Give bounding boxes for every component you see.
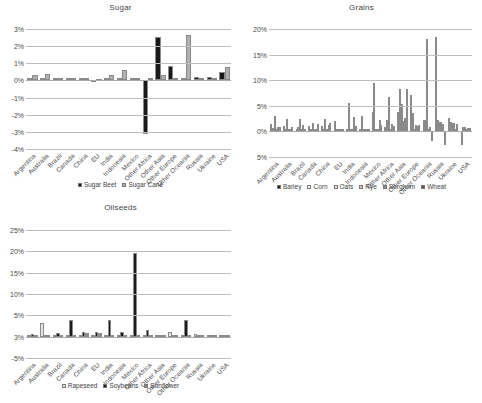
legend-label: Sunflower xyxy=(150,382,179,389)
bar-group xyxy=(421,29,434,157)
legend-grains: BarleyCornOatsRyeSorghumWheat xyxy=(241,183,482,190)
y-tick-label: 20% xyxy=(253,26,267,33)
legend-label: Sugar Beet xyxy=(84,181,117,188)
gridline xyxy=(26,63,231,64)
legend-swatch xyxy=(307,185,311,189)
gridline xyxy=(269,106,472,107)
bar xyxy=(133,253,136,336)
legend-item: Sugar Cane xyxy=(122,181,163,188)
bar xyxy=(388,97,390,132)
y-tick-label: 5% xyxy=(257,154,267,161)
chart-panel-grains: Grains 20%15%10%5%0%5% ArgentinaAustrali… xyxy=(241,0,482,200)
gridline xyxy=(26,315,231,316)
gridline xyxy=(26,230,231,231)
gridline xyxy=(269,80,472,81)
legend-swatch xyxy=(359,185,363,189)
legend-sugar: Sugar BeetSugar Cane xyxy=(0,181,241,188)
y-tick-label: 3% xyxy=(14,333,24,340)
legend-item: Barley xyxy=(277,183,301,190)
y-axis-oilseeds: 25%20%15%10%5%3%-5% xyxy=(0,230,26,358)
gridline xyxy=(26,46,231,47)
y-axis-sugar: 3%2%1%0%-1%-2%-3%-4% xyxy=(0,29,26,149)
bar xyxy=(406,89,408,131)
bar xyxy=(155,37,160,81)
legend-item: Rye xyxy=(359,183,377,190)
chart-title-sugar: Sugar xyxy=(0,0,241,12)
gridline xyxy=(269,55,472,56)
bar xyxy=(122,70,127,80)
bar-group xyxy=(396,29,409,157)
y-tick-label: 5% xyxy=(257,102,267,109)
legend-item: Sorghum xyxy=(383,183,415,190)
gridline xyxy=(26,251,231,252)
gridline xyxy=(26,29,231,30)
legend-item: Soybeans xyxy=(103,382,138,389)
gridline xyxy=(26,98,231,99)
y-tick-label: 0% xyxy=(257,128,267,135)
legend-label: Sorghum xyxy=(389,183,415,190)
y-tick-label: -4% xyxy=(12,146,24,153)
y-tick-label: 25% xyxy=(10,227,24,234)
bar-group xyxy=(447,29,460,157)
legend-oilseeds: RapeseedSoybeansSunflower xyxy=(0,382,241,389)
gridline xyxy=(26,358,231,359)
y-tick-label: 15% xyxy=(10,269,24,276)
legend-label: Oats xyxy=(340,183,354,190)
bar-group xyxy=(282,29,295,157)
bar xyxy=(317,124,319,132)
legend-item: Oats xyxy=(334,183,354,190)
legend-swatch xyxy=(421,185,425,189)
bar-group xyxy=(307,29,320,157)
legend-item: Rapeseed xyxy=(62,382,98,389)
chart-title-grains: Grains xyxy=(241,0,482,12)
y-tick-label: 10% xyxy=(10,291,24,298)
legend-swatch xyxy=(334,185,338,189)
bar-groups-grains xyxy=(269,29,472,157)
gridline xyxy=(26,132,231,133)
chart-title-oilseeds: Oilseeds xyxy=(0,200,241,212)
bar-group xyxy=(383,29,396,157)
bar-group xyxy=(320,29,333,157)
gridline xyxy=(26,273,231,274)
gridline xyxy=(26,337,231,338)
legend-label: Sugar Cane xyxy=(128,181,163,188)
legend-label: Barley xyxy=(283,183,301,190)
bar-group xyxy=(459,29,472,157)
legend-item: Corn xyxy=(307,183,327,190)
y-tick-label: 3% xyxy=(14,26,24,33)
bar-group xyxy=(345,29,358,157)
legend-swatch xyxy=(144,384,148,388)
bar xyxy=(373,83,375,132)
bar xyxy=(435,37,437,131)
bar xyxy=(431,131,433,141)
chart-panel-sugar: Sugar 3%2%1%0%-1%-2%-3%-4% ArgentinaAust… xyxy=(0,0,241,200)
y-tick-label: -3% xyxy=(12,128,24,135)
bar xyxy=(143,80,148,133)
legend-swatch xyxy=(383,185,387,189)
gridline xyxy=(269,131,472,132)
y-tick-label: 0% xyxy=(14,77,24,84)
bar xyxy=(348,103,350,131)
y-tick-label: 15% xyxy=(253,51,267,58)
x-tick-label: USA xyxy=(215,152,230,167)
gridline xyxy=(26,149,231,150)
legend-label: Soybeans xyxy=(109,382,138,389)
bar xyxy=(461,131,463,144)
legend-label: Rye xyxy=(365,183,377,190)
plot-canvas-sugar xyxy=(26,29,231,149)
legend-swatch xyxy=(103,384,107,388)
legend-item: Sugar Beet xyxy=(78,181,117,188)
y-tick-label: -1% xyxy=(12,94,24,101)
y-tick-label: 10% xyxy=(253,77,267,84)
legend-label: Rapeseed xyxy=(68,382,98,389)
chart-panel-oilseeds: Oilseeds 25%20%15%10%5%3%-5% ArgentinaAu… xyxy=(0,200,241,403)
bar-group xyxy=(269,29,282,157)
legend-item: Sunflower xyxy=(144,382,179,389)
legend-item: Wheat xyxy=(421,183,446,190)
bar xyxy=(444,131,446,144)
x-tick-label: USA xyxy=(456,160,471,175)
y-tick-label: 1% xyxy=(14,60,24,67)
bar-group xyxy=(371,29,384,157)
bar-group xyxy=(409,29,422,157)
gridline xyxy=(26,294,231,295)
